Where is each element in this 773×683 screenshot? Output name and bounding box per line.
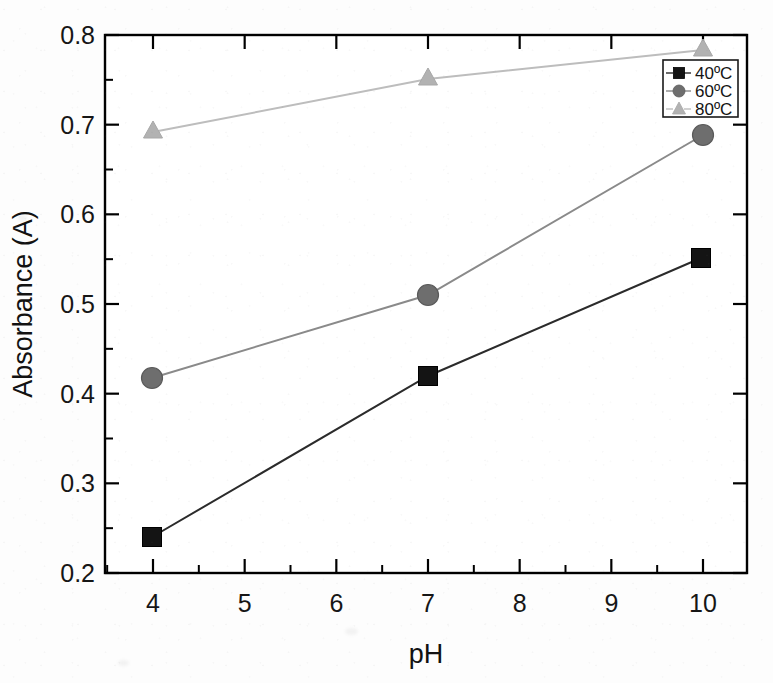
series-60c-point-ph10	[693, 125, 714, 146]
y-tick-labels: 0.8 0.7 0.6 0.5 0.4 0.3 0.2	[60, 21, 95, 587]
x-axis-title: pH	[409, 639, 444, 669]
y-axis-title: Absorbance (A)	[8, 210, 38, 398]
x-tick-label: 7	[421, 589, 435, 617]
y-tick-label: 0.4	[60, 380, 95, 408]
y-tick-label: 0.8	[60, 21, 95, 49]
legend-label-40c: 40ºC	[695, 64, 732, 83]
x-tick-label: 4	[146, 589, 160, 617]
x-tick-label: 6	[329, 589, 343, 617]
x-tick-label: 8	[513, 589, 527, 617]
y-tick-label: 0.3	[60, 469, 95, 497]
y-tick-label: 0.7	[60, 111, 95, 139]
series-40c-point-ph10	[692, 249, 711, 268]
chart-legend[interactable]: 40ºC 60ºC 80ºC	[663, 60, 738, 119]
series-40c-point-ph4	[143, 528, 162, 547]
line-chart: 0.8 0.7 0.6 0.5 0.4 0.3 0.2 4 5 6 7 8 9 …	[0, 0, 773, 683]
y-tick-label: 0.2	[60, 559, 95, 587]
series-40c-point-ph7	[419, 367, 438, 386]
series-60c-point-ph4	[142, 368, 163, 389]
y-tick-label: 0.6	[60, 200, 95, 228]
circle-marker-icon	[673, 85, 685, 97]
y-tick-label: 0.5	[60, 290, 95, 318]
series-60c-point-ph7	[418, 285, 439, 306]
x-tick-label: 9	[604, 589, 618, 617]
x-tick-label: 5	[238, 589, 252, 617]
chart-figure: 0.8 0.7 0.6 0.5 0.4 0.3 0.2 4 5 6 7 8 9 …	[0, 0, 773, 683]
x-tick-labels: 4 5 6 7 8 9 10	[146, 589, 717, 617]
legend-label-80c: 80ºC	[695, 100, 732, 119]
legend-label-60c: 60ºC	[695, 82, 732, 101]
square-marker-icon	[674, 68, 685, 79]
x-tick-label: 10	[689, 589, 717, 617]
